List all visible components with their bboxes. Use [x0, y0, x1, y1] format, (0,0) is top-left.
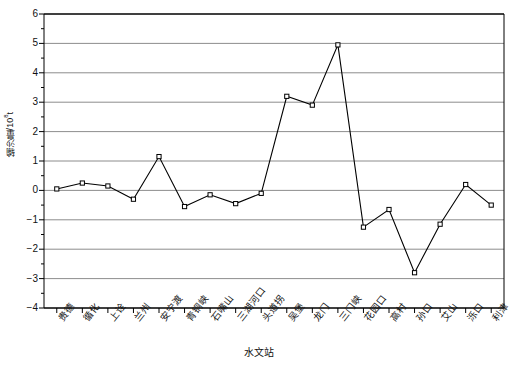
data-point-marker — [55, 187, 59, 191]
chart-figure: 输沙量/108t 水文站 6543210−1−2−3−4 贵德循化上诠兰州安宁渡… — [0, 0, 518, 366]
data-point-marker — [80, 181, 84, 185]
y-tick-label: −4 — [14, 302, 38, 313]
data-series-line — [57, 45, 491, 273]
y-tick-label: −1 — [14, 214, 38, 225]
data-point-marker — [310, 103, 314, 107]
data-point-marker — [106, 184, 110, 188]
data-point-marker — [336, 43, 340, 47]
data-point-marker — [157, 154, 161, 158]
data-point-marker — [489, 203, 493, 207]
data-point-marker — [234, 202, 238, 206]
data-point-marker — [464, 182, 468, 186]
y-tick-label: −3 — [14, 273, 38, 284]
y-tick-label: 2 — [14, 126, 38, 137]
data-point-marker — [438, 222, 442, 226]
y-axis-title-exponent: 8 — [3, 115, 9, 118]
data-point-marker — [361, 225, 365, 229]
data-point-marker — [182, 204, 186, 208]
data-point-marker — [131, 197, 135, 201]
y-tick-label: 1 — [14, 155, 38, 166]
data-point-marker — [208, 193, 212, 197]
data-point-marker — [285, 94, 289, 98]
data-point-marker — [387, 207, 391, 211]
y-axis-title-unit: t — [5, 112, 15, 115]
y-axis-title-text: 输沙量/10 — [5, 118, 15, 158]
data-point-marker — [259, 191, 263, 195]
y-tick-label: 0 — [14, 184, 38, 195]
data-point-marker — [412, 271, 416, 275]
y-tick-label: −2 — [14, 243, 38, 254]
y-tick-label: 5 — [14, 37, 38, 48]
y-tick-label: 4 — [14, 67, 38, 78]
y-tick-label: 3 — [14, 96, 38, 107]
y-tick-label: 6 — [14, 8, 38, 19]
x-axis-title: 水文站 — [0, 344, 518, 359]
